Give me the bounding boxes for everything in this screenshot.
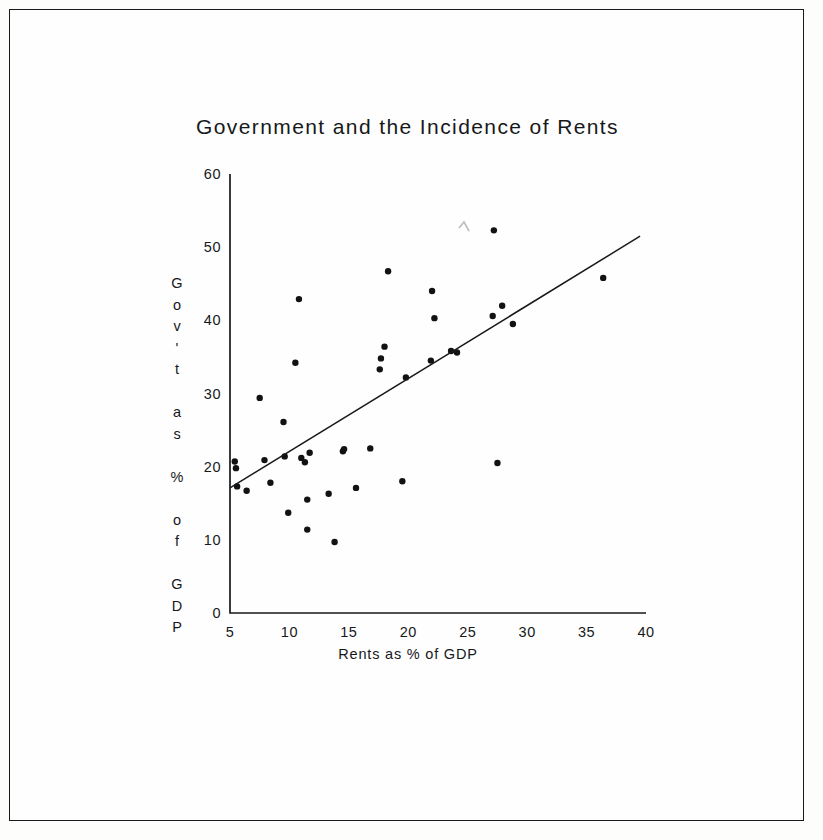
data-point (510, 321, 516, 327)
y-tick-label: 40 (204, 312, 221, 328)
data-point (325, 491, 331, 497)
y-axis-title-char: D (172, 598, 182, 614)
y-axis-title-char: f (175, 533, 180, 549)
regression-line (230, 236, 640, 488)
y-axis-title-char: s (173, 426, 180, 442)
x-axis-title: Rents as % of GDP (338, 646, 477, 662)
data-point (233, 465, 239, 471)
y-axis-title-char: G (171, 576, 182, 592)
data-point (243, 488, 249, 494)
data-point (306, 450, 312, 456)
data-point (353, 485, 359, 491)
y-tick-label: 30 (204, 386, 221, 402)
figure: Government and the Incidence of Rents Go… (10, 10, 805, 822)
data-point (385, 268, 391, 274)
x-tick-label: 10 (281, 624, 298, 640)
y-tick-label: 0 (212, 605, 221, 621)
y-tick-label: 50 (204, 239, 221, 255)
y-axis-tick-labels: 0102030405060 (204, 166, 221, 621)
x-tick-label: 20 (400, 624, 417, 640)
y-axis-title: Gov'tas%ofGDP (171, 275, 184, 635)
data-point (304, 526, 310, 532)
axis-lines (230, 174, 646, 613)
y-axis-title-char: o (173, 297, 181, 313)
data-point (341, 446, 347, 452)
data-point (367, 445, 373, 451)
data-point (296, 296, 302, 302)
x-tick-label: 15 (340, 624, 357, 640)
y-tick-label: 20 (204, 459, 221, 475)
data-point (489, 313, 495, 319)
y-axis-title-char: P (172, 619, 182, 635)
chart-canvas: Gov'tas%ofGDP 0102030405060 510152025303… (10, 10, 805, 822)
y-axis-title-char: t (175, 361, 179, 377)
data-point (232, 458, 238, 464)
data-point (302, 459, 308, 465)
data-point (285, 510, 291, 516)
y-axis-title-char: o (173, 512, 181, 528)
y-axis-title-char: v (173, 318, 181, 334)
data-point (331, 539, 337, 545)
data-point (292, 360, 298, 366)
y-axis-title-char: a (173, 404, 182, 420)
x-tick-label: 25 (459, 624, 476, 640)
stray-mark (459, 222, 469, 231)
x-axis-tick-labels: 510152025303540 (226, 624, 655, 640)
y-axis-title-char: % (171, 469, 184, 485)
data-point (494, 460, 500, 466)
data-point (257, 395, 263, 401)
data-point (491, 227, 497, 233)
x-tick-label: 35 (578, 624, 595, 640)
data-point (399, 478, 405, 484)
data-point (381, 343, 387, 349)
data-point (261, 457, 267, 463)
figure-frame: Government and the Incidence of Rents Go… (9, 9, 804, 821)
scatter-plot: Gov'tas%ofGDP 0102030405060 510152025303… (10, 10, 805, 822)
data-point (378, 355, 384, 361)
data-point (280, 419, 286, 425)
data-point (267, 480, 273, 486)
data-point (429, 288, 435, 294)
y-axis-title-char: G (171, 275, 182, 291)
y-tick-label: 10 (204, 532, 221, 548)
x-tick-label: 30 (519, 624, 536, 640)
x-tick-label: 5 (226, 624, 235, 640)
data-point (499, 303, 505, 309)
data-point (431, 315, 437, 321)
screenshot-page: Government and the Incidence of Rents Go… (0, 0, 823, 840)
data-point (304, 496, 310, 502)
y-tick-label: 60 (204, 166, 221, 182)
data-point (600, 275, 606, 281)
x-tick-label: 40 (637, 624, 654, 640)
y-axis-title-char: ' (176, 340, 179, 356)
data-points (232, 227, 607, 545)
data-point (377, 366, 383, 372)
